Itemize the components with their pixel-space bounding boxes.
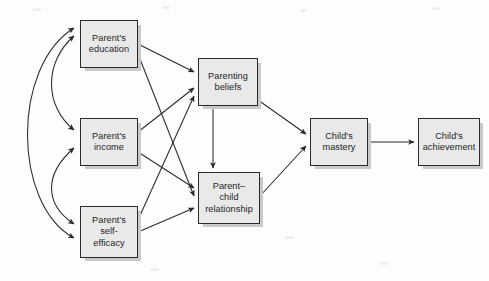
edge-beliefs-to-mastery <box>258 100 306 134</box>
edge-relationship-to-mastery <box>260 146 306 196</box>
edge-efficacy-to-relationship <box>138 208 194 232</box>
node-parenting-beliefs[interactable]: Parenting beliefs <box>198 58 258 106</box>
scan-speck <box>150 268 159 271</box>
edge-edu-to-beliefs <box>138 44 194 72</box>
scan-speck <box>432 7 440 10</box>
node-parent-self-efficacy-label: Parent's self- efficacy <box>90 215 128 249</box>
path-diagram: Parent's education Parent's income Paren… <box>0 0 489 281</box>
node-child-mastery[interactable]: Child's mastery <box>310 118 368 166</box>
node-parent-education[interactable]: Parent's education <box>80 20 138 68</box>
node-parent-income-label: Parent's income <box>90 131 128 154</box>
scan-speck <box>284 236 294 239</box>
edge-edu-efficacy-correlation <box>28 28 75 238</box>
node-child-mastery-label: Child's mastery <box>320 131 357 154</box>
node-parenting-beliefs-label: Parenting beliefs <box>206 71 250 94</box>
node-parent-education-label: Parent's education <box>87 33 131 56</box>
scan-speck <box>162 6 170 9</box>
edge-income-efficacy-correlation <box>52 148 75 224</box>
scan-speck <box>32 8 41 11</box>
node-child-achievement-label: Child's achievement <box>421 131 478 154</box>
node-parent-child-relationship-label: Parent– child relationship <box>203 181 255 215</box>
edge-edu-income-correlation <box>52 36 75 130</box>
diagram-arrows-layer <box>0 0 489 281</box>
node-parent-child-relationship[interactable]: Parent– child relationship <box>198 172 260 224</box>
node-child-achievement[interactable]: Child's achievement <box>418 118 480 166</box>
scan-speck <box>300 9 307 12</box>
node-parent-self-efficacy[interactable]: Parent's self- efficacy <box>80 206 138 258</box>
scan-speck <box>380 262 388 265</box>
node-parent-income[interactable]: Parent's income <box>80 118 138 166</box>
